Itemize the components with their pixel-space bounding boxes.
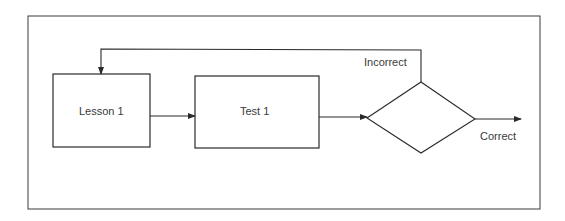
correct-label: Correct: [480, 131, 516, 142]
flowchart-canvas: Lesson 1 Test 1 Incorrect Correct: [0, 0, 565, 221]
decision-diamond: [367, 82, 475, 153]
test-1-label: Test 1: [240, 106, 269, 117]
incorrect-label: Incorrect: [364, 57, 407, 68]
lesson-1-label: Lesson 1: [79, 106, 124, 117]
